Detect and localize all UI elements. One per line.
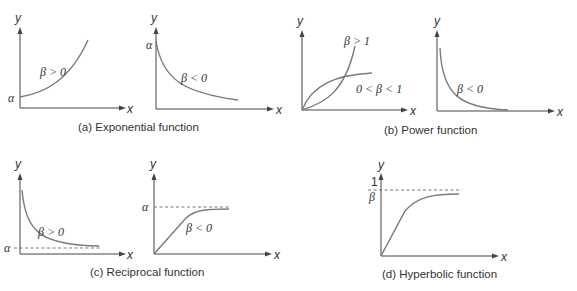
asymptote-label-denominator: β: [368, 190, 375, 204]
y-axis-label: y: [150, 11, 158, 25]
panel-d: y x 1 β: [368, 158, 508, 264]
x-axis-arrow-icon: [548, 109, 555, 114]
y-axis-label: y: [296, 14, 304, 28]
y-axis-label: y: [14, 11, 22, 25]
asymptote-label-numerator: 1: [371, 175, 378, 189]
caption-c: (c) Reciprocal function: [90, 266, 204, 278]
curve-label: β < 0: [180, 71, 207, 85]
caption-a: (a) Exponential function: [78, 121, 199, 133]
x-axis-label: x: [126, 102, 134, 116]
hyperbolic-curve: [381, 194, 459, 256]
panel-b-left: y x β > 1 0 < β < 1: [296, 14, 417, 118]
x-axis-arrow-icon: [265, 252, 272, 257]
power-decay-curve: [440, 48, 508, 110]
x-axis-label: x: [500, 250, 508, 264]
x-axis-arrow-icon: [492, 254, 499, 259]
curve-label: β < 0: [456, 82, 483, 96]
panel-c-right: y x α β < 0: [142, 157, 281, 262]
intercept-label: α: [146, 38, 153, 52]
y-axis-arrow-icon: [435, 30, 440, 37]
y-axis-arrow-icon: [379, 173, 384, 180]
x-axis-label: x: [409, 104, 417, 118]
y-axis-arrow-icon: [154, 27, 159, 34]
y-axis-label: y: [14, 157, 22, 171]
power-curve-beta-gt-1: [302, 46, 355, 110]
y-axis-arrow-icon: [152, 173, 157, 180]
x-axis-label: x: [273, 248, 281, 262]
x-axis-label: x: [556, 105, 564, 119]
x-axis-label: x: [275, 103, 283, 117]
caption-d: (d) Hyperbolic function: [382, 268, 497, 280]
function-forms-figure: y x α β > 0 y x α β < 0 (a) Exponential …: [0, 0, 577, 291]
x-axis-arrow-icon: [401, 108, 408, 113]
curve-label: β < 0: [185, 221, 212, 235]
curve-label: β > 0: [37, 225, 64, 239]
y-axis-label: y: [377, 158, 385, 172]
panel-a-right: y x α β < 0: [146, 11, 283, 117]
asymptote-label: α: [142, 200, 149, 214]
curve-label-beta-0-1: 0 < β < 1: [356, 82, 402, 96]
y-axis-arrow-icon: [300, 30, 305, 37]
x-axis-label: x: [126, 248, 134, 262]
y-axis-label: y: [149, 157, 157, 171]
y-axis-arrow-icon: [18, 173, 23, 180]
panel-b-right: y x β < 0: [433, 14, 564, 119]
x-axis-arrow-icon: [119, 106, 126, 111]
y-axis-arrow-icon: [18, 27, 23, 34]
panel-a-left: y x α β > 0: [8, 11, 134, 116]
curve-label: β > 0: [39, 65, 66, 79]
curve-label-beta-gt-1: β > 1: [343, 34, 370, 48]
x-axis-arrow-icon: [267, 107, 274, 112]
asymptote-label: α: [4, 241, 11, 255]
intercept-label: α: [8, 91, 15, 105]
x-axis-arrow-icon: [119, 252, 126, 257]
caption-b: (b) Power function: [384, 124, 477, 136]
panel-c-left: y x α β > 0: [4, 157, 134, 262]
y-axis-label: y: [433, 14, 441, 28]
